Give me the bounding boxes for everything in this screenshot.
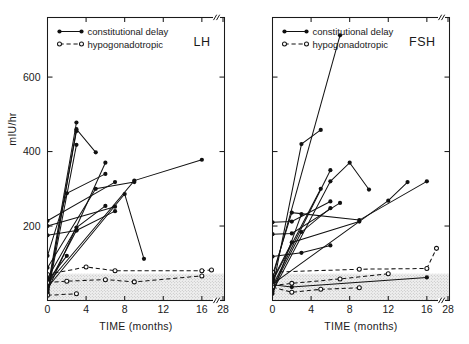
data-point bbox=[338, 201, 342, 205]
data-point bbox=[319, 128, 323, 132]
data-point bbox=[367, 187, 371, 191]
subject-trace-hypogonadotropic bbox=[273, 248, 437, 272]
subject-trace-constitutional-delay bbox=[48, 145, 77, 295]
x-tick-label: 0 bbox=[270, 303, 276, 315]
y-tick-label: 400 bbox=[23, 145, 41, 157]
data-point bbox=[113, 209, 117, 213]
subject-trace-constitutional-delay bbox=[273, 201, 331, 222]
data-point bbox=[103, 278, 107, 282]
data-point bbox=[74, 120, 78, 124]
data-point bbox=[328, 168, 332, 172]
data-point bbox=[94, 150, 98, 154]
data-point bbox=[74, 143, 78, 147]
legend-marker-start bbox=[282, 29, 286, 33]
x-tick-label: 28 bbox=[442, 303, 454, 315]
data-point bbox=[290, 281, 294, 285]
subject-trace-constitutional-delay bbox=[48, 160, 202, 284]
data-point bbox=[103, 161, 107, 165]
plot-frame bbox=[273, 18, 450, 301]
data-point bbox=[74, 228, 78, 232]
hormone-response-chart: 048121628200400600LHconstitutional delay… bbox=[0, 0, 469, 344]
data-point bbox=[328, 199, 332, 203]
data-layer bbox=[270, 33, 438, 296]
legend-label-hypogonadotropic: hypogonadotropic bbox=[88, 39, 164, 50]
data-point bbox=[65, 279, 69, 283]
data-point bbox=[405, 180, 409, 184]
data-point bbox=[84, 265, 88, 269]
data-point bbox=[94, 187, 98, 191]
data-point bbox=[435, 246, 439, 250]
x-tick-label: 4 bbox=[83, 303, 89, 315]
data-point bbox=[425, 275, 429, 279]
data-point bbox=[210, 268, 214, 272]
x-axis-title: TIME (months) bbox=[99, 320, 172, 332]
legend-marker-start bbox=[283, 42, 287, 46]
data-point bbox=[200, 274, 204, 278]
data-point bbox=[132, 280, 136, 284]
legend-marker-end bbox=[80, 42, 84, 46]
x-tick-label: 12 bbox=[157, 303, 169, 315]
data-point bbox=[290, 211, 294, 215]
x-tick-label: 4 bbox=[308, 303, 314, 315]
data-point bbox=[290, 231, 294, 235]
data-point bbox=[338, 277, 342, 281]
x-axis-title: TIME (months) bbox=[324, 320, 397, 332]
legend-marker-start bbox=[57, 29, 61, 33]
y-axis-title: mIU/hr bbox=[6, 112, 18, 146]
data-point bbox=[348, 161, 352, 165]
data-point bbox=[299, 142, 303, 146]
data-point bbox=[65, 191, 69, 195]
data-point bbox=[357, 219, 361, 223]
data-point bbox=[425, 179, 429, 183]
data-point bbox=[290, 240, 294, 244]
subject-trace-constitutional-delay bbox=[48, 131, 77, 292]
shaded-normal-range bbox=[48, 274, 224, 300]
data-point bbox=[299, 230, 303, 234]
legend-marker-end bbox=[79, 29, 83, 33]
subject-trace-hypogonadotropic bbox=[48, 267, 212, 274]
data-point bbox=[123, 192, 127, 196]
data-point bbox=[425, 266, 429, 270]
data-point bbox=[357, 286, 361, 290]
panel-label-lh: LH bbox=[194, 35, 211, 49]
data-point bbox=[74, 129, 78, 133]
data-point bbox=[113, 269, 117, 273]
data-point bbox=[103, 204, 107, 208]
data-point bbox=[328, 243, 332, 247]
panel-fsh: 048121628FSHconstitutional delayhypogona… bbox=[270, 15, 454, 332]
legend-label-constitutional-delay: constitutional delay bbox=[88, 26, 169, 37]
data-point bbox=[74, 292, 78, 296]
data-point bbox=[200, 269, 204, 273]
data-point bbox=[200, 158, 204, 162]
data-point bbox=[103, 172, 107, 176]
panel-lh: 048121628200400600LHconstitutional delay… bbox=[23, 15, 229, 332]
data-point bbox=[132, 179, 136, 183]
data-point bbox=[319, 187, 323, 191]
subject-trace-constitutional-delay bbox=[48, 123, 77, 290]
legend-marker-end bbox=[304, 29, 308, 33]
y-tick-label: 200 bbox=[23, 220, 41, 232]
x-tick-label: 8 bbox=[122, 303, 128, 315]
x-tick-label: 0 bbox=[45, 303, 51, 315]
data-point bbox=[290, 219, 294, 223]
data-point bbox=[299, 251, 303, 255]
legend-marker-end bbox=[305, 42, 309, 46]
data-point bbox=[65, 254, 69, 258]
data-point bbox=[319, 287, 323, 291]
data-layer bbox=[45, 120, 213, 297]
data-point bbox=[328, 206, 332, 210]
figure-root: 048121628200400600LHconstitutional delay… bbox=[0, 0, 469, 344]
x-tick-label: 16 bbox=[421, 303, 433, 315]
data-point bbox=[328, 179, 332, 183]
x-tick-label: 12 bbox=[382, 303, 394, 315]
legend-marker-start bbox=[58, 42, 62, 46]
data-point bbox=[290, 290, 294, 294]
y-tick-label: 600 bbox=[23, 71, 41, 83]
data-point bbox=[386, 272, 390, 276]
data-point bbox=[142, 257, 146, 261]
x-tick-label: 28 bbox=[217, 303, 229, 315]
data-point bbox=[357, 267, 361, 271]
legend-label-hypogonadotropic: hypogonadotropic bbox=[313, 39, 389, 50]
legend-label-constitutional-delay: constitutional delay bbox=[313, 26, 394, 37]
subject-trace-constitutional-delay bbox=[48, 129, 96, 294]
